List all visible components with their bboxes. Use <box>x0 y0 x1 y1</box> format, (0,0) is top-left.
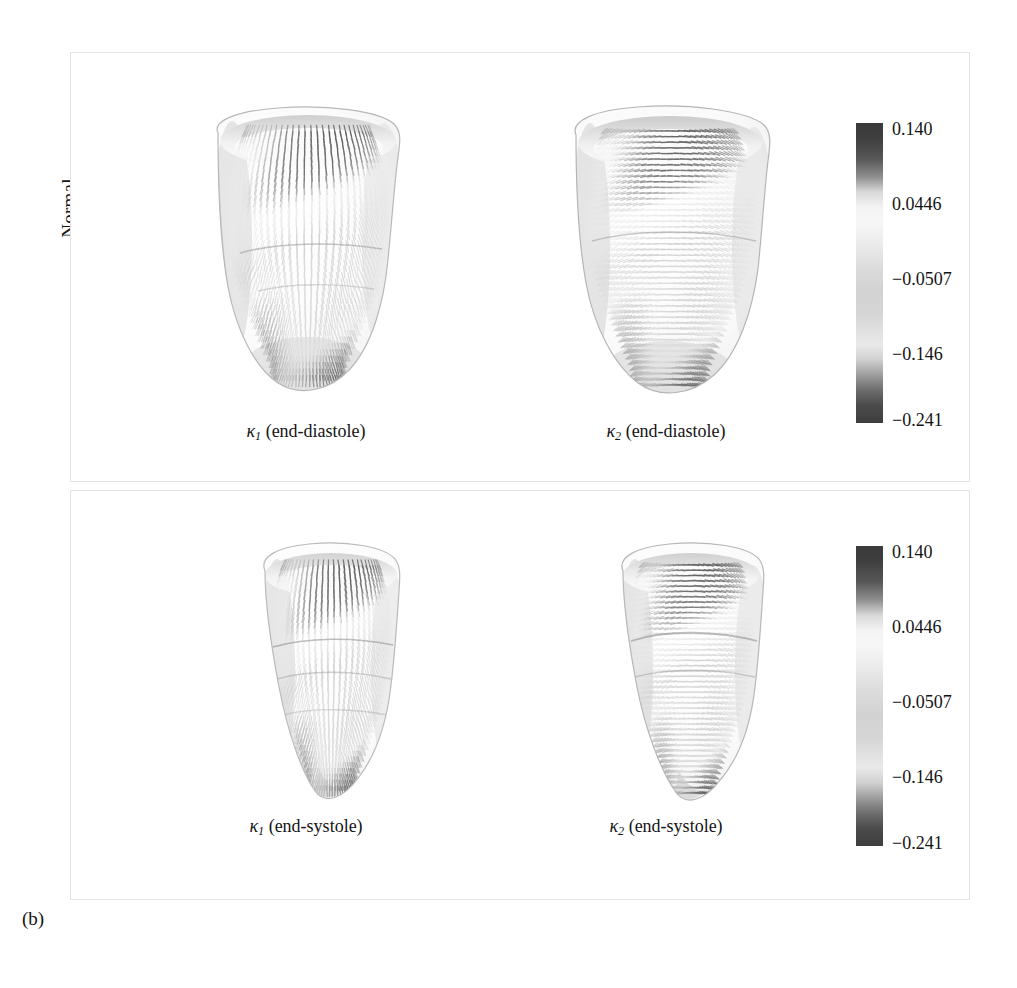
caption-k1-end-diastole: κ1 (end-diastole) <box>181 421 431 444</box>
colorbar-tick-0: 0.140 <box>892 119 933 140</box>
colorbar-gradient <box>856 123 883 423</box>
kappa-symbol: κ2 <box>606 421 621 441</box>
panel-end-systole: κ1 (end-systole) κ2 (end-systole) 0.140 … <box>70 490 970 900</box>
ventricle-k2-end-systole <box>561 529 811 819</box>
colorbar-tick-2: −0.0507 <box>892 692 952 713</box>
kappa-symbol: κ2 <box>609 816 624 836</box>
caption-k1-end-systole: κ1 (end-systole) <box>181 816 431 839</box>
colorbar-tick-1: 0.0446 <box>892 194 942 215</box>
caption-suffix: (end-systole) <box>624 816 722 836</box>
ventricle-surface-k1-es <box>201 529 451 819</box>
ventricle-k2-end-diastole <box>526 91 816 421</box>
colorbar-end-systole: 0.140 0.0446 −0.0507 −0.146 −0.241 <box>856 546 976 846</box>
ventricle-k1-end-systole <box>201 529 451 819</box>
ventricle-render-k2-ed <box>526 91 816 421</box>
ventricle-surface-k2-es <box>561 529 811 819</box>
ventricle-render-k2-es <box>561 529 811 819</box>
colorbar-tick-3: −0.146 <box>892 767 943 788</box>
colorbar-tick-4: −0.241 <box>892 833 943 854</box>
caption-suffix: (end-diastole) <box>621 421 725 441</box>
ventricle-render-k1-es <box>201 529 451 819</box>
colorbar-end-diastole: 0.140 0.0446 −0.0507 −0.146 −0.241 <box>856 123 976 423</box>
colorbar-tick-3: −0.146 <box>892 344 943 365</box>
panel-end-diastole: κ1 (end-diastole) κ2 (end-diastole) 0.14… <box>70 52 970 482</box>
caption-suffix: (end-diastole) <box>261 421 365 441</box>
colorbar-tick-0: 0.140 <box>892 542 933 563</box>
caption-suffix: (end-systole) <box>264 816 362 836</box>
colorbar-tick-4: −0.241 <box>892 410 943 431</box>
kappa-symbol: κ1 <box>249 816 264 836</box>
colorbar-tick-labels: 0.140 0.0446 −0.0507 −0.146 −0.241 <box>892 123 976 423</box>
ventricle-k1-end-diastole <box>166 91 446 421</box>
colorbar-tick-labels: 0.140 0.0446 −0.0507 −0.146 −0.241 <box>892 546 976 846</box>
caption-k2-end-systole: κ2 (end-systole) <box>541 816 791 839</box>
figure-container: Normal <box>0 0 1017 988</box>
ventricle-surface-k1-ed <box>166 91 446 421</box>
ventricle-render-k1-ed <box>166 91 446 421</box>
colorbar-tick-1: 0.0446 <box>892 617 942 638</box>
colorbar-gradient <box>856 546 883 846</box>
ventricle-surface-k2-ed <box>526 91 816 421</box>
figure-caption: (b) <box>22 908 44 930</box>
kappa-symbol: κ1 <box>246 421 261 441</box>
colorbar-tick-2: −0.0507 <box>892 269 952 290</box>
caption-k2-end-diastole: κ2 (end-diastole) <box>541 421 791 444</box>
